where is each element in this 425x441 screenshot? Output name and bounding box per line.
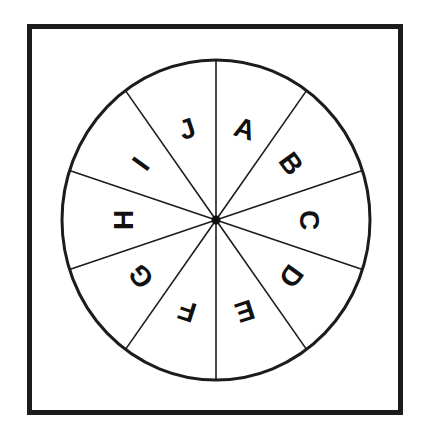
sector-label-h: H <box>108 210 139 230</box>
spinner-diagram: ABCDEFGHIJ <box>0 0 425 441</box>
sector-label-c: C <box>294 210 325 230</box>
hub-pivot <box>212 216 221 225</box>
spinner-wheel: ABCDEFGHIJ <box>0 0 425 441</box>
